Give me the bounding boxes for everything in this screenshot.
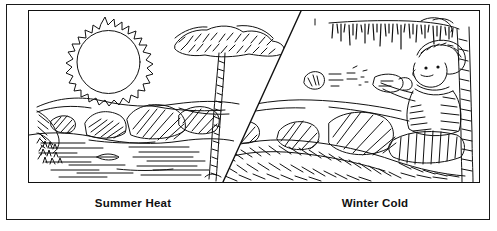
boulders: [51, 105, 219, 140]
caption-summer-heat: Summer Heat: [28, 196, 256, 210]
scene-illustration: [29, 11, 479, 182]
snowball: [304, 72, 324, 90]
sun-icon: [66, 17, 153, 106]
illustration-figure: Summer Heat Winter Cold: [0, 0, 497, 231]
mitten-hand: [373, 74, 412, 92]
child-figure: [381, 40, 465, 164]
caption-winter-cold: Winter Cold: [256, 196, 480, 210]
caption-row: Summer Heat Winter Cold: [28, 192, 480, 214]
motion-streaks: [329, 66, 368, 86]
pond-water: [29, 133, 234, 177]
tree: [175, 26, 284, 181]
icicle-branch: [315, 18, 459, 49]
grass-tufts: [37, 138, 62, 164]
picture-frame: [28, 10, 480, 183]
snow-bank: [223, 140, 465, 181]
snow-horizon: [227, 100, 409, 121]
diagonal-divider: [223, 11, 301, 182]
summer-panel-art: [29, 17, 284, 181]
